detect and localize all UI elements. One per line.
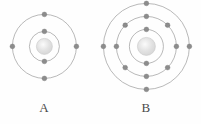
atom-b-middle-shell-electron-1 [144, 14, 149, 19]
atom-b-middle-shell-electron-6 [122, 65, 127, 70]
atom-a [7, 9, 82, 84]
atom-b-middle-shell-electron-4 [165, 65, 170, 70]
atom-b-outer-shell-electron-4 [101, 44, 106, 49]
atom-b [98, 0, 195, 94]
atom-a-outer-shell-electron-3 [42, 76, 47, 81]
atom-b-middle-shell-electron-7 [114, 44, 119, 49]
atomic-diagram-figure: AB [0, 0, 201, 124]
atom-b-outer-shell-electron-3 [144, 87, 149, 92]
atom-a-nucleus [36, 38, 52, 54]
atom-b-outer-shell-electron-2 [187, 44, 192, 49]
atom-b-inner-shell-electron-1 [144, 27, 149, 32]
atom-b-nucleus [137, 37, 155, 55]
atom-a-outer-shell-electron-1 [42, 12, 47, 17]
atom-a-inner-shell-electron-2 [42, 59, 47, 64]
atom-a-label: A [24, 101, 64, 114]
atom-b-inner-shell-electron-2 [144, 61, 149, 66]
atom-a-inner-shell-electron-1 [42, 29, 47, 34]
atom-b-label: B [126, 101, 166, 114]
atom-b-outer-shell-electron-1 [144, 1, 149, 6]
atom-a-outer-shell-electron-2 [74, 44, 79, 49]
atom-b-middle-shell-electron-3 [174, 44, 179, 49]
atom-b-middle-shell-electron-2 [165, 22, 170, 27]
atom-a-outer-shell-electron-4 [10, 44, 15, 49]
atom-b-middle-shell-electron-8 [122, 22, 127, 27]
atom-b-middle-shell-electron-5 [144, 74, 149, 79]
